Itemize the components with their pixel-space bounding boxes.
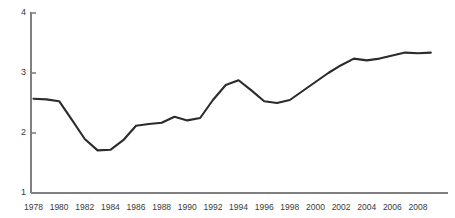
axes-group <box>31 12 448 193</box>
y-axis-tick-label: 1 <box>10 188 26 197</box>
line-chart: 1234 19781980198219841986198819901992199… <box>0 0 455 218</box>
data-series-group <box>34 53 431 151</box>
x-axis-tick-label: 2008 <box>403 203 433 212</box>
y-axis-tick-label: 3 <box>10 68 26 77</box>
data-line-series-1 <box>34 53 431 151</box>
y-axis-tick-label: 4 <box>10 8 26 17</box>
y-axis-tick-label: 2 <box>10 128 26 137</box>
chart-plot-area <box>0 0 455 218</box>
